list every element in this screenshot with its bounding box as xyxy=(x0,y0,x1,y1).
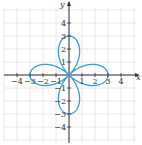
svg-text:−2: −2 xyxy=(54,97,66,106)
svg-text:3: 3 xyxy=(61,32,66,41)
svg-text:4: 4 xyxy=(118,77,123,86)
svg-text:−3: −3 xyxy=(54,110,66,119)
svg-text:−4: −4 xyxy=(11,77,23,86)
x-axis-label: x xyxy=(136,73,141,82)
svg-text:−2: −2 xyxy=(37,77,49,86)
svg-text:2: 2 xyxy=(61,45,66,54)
svg-text:3: 3 xyxy=(105,77,110,86)
svg-text:−1: −1 xyxy=(54,84,66,93)
svg-text:2: 2 xyxy=(92,77,97,86)
svg-text:1: 1 xyxy=(79,77,84,86)
svg-text:4: 4 xyxy=(61,19,66,28)
y-axis-label: y xyxy=(59,0,65,9)
rose-curve-chart: −4−3−2−11234−4−3−2−11234 x y xyxy=(0,0,142,145)
svg-text:−3: −3 xyxy=(24,77,36,86)
svg-text:−4: −4 xyxy=(54,123,66,132)
svg-text:1: 1 xyxy=(61,58,66,67)
